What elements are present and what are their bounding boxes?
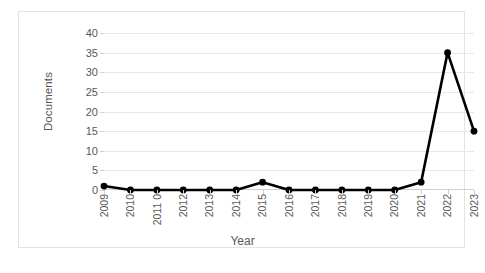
y-axis-tick-label: 0 xyxy=(72,185,98,196)
x-axis-tick-label: 2015 xyxy=(257,194,268,217)
y-axis-tick-label: 35 xyxy=(72,47,98,58)
x-axis-tick-label: 2021 xyxy=(416,194,427,217)
x-axis-tick: 2018 xyxy=(335,194,349,221)
data-point-marker xyxy=(101,183,108,190)
data-point-marker xyxy=(259,179,266,186)
x-axis-tick: 2010 xyxy=(123,194,137,221)
x-axis-tick-label: 2018 xyxy=(337,194,348,217)
x-axis-tick: 2016 xyxy=(282,194,296,221)
x-axis-tick: 2014 xyxy=(229,194,243,221)
x-axis-tick-label: 2017 xyxy=(310,194,321,217)
data-point-marker xyxy=(418,179,425,186)
x-axis-tick: 2017 xyxy=(308,194,322,221)
x-axis-tick: 2012 xyxy=(176,194,190,221)
x-axis-tick-label: 2013 xyxy=(204,194,215,217)
plot-area xyxy=(104,33,474,190)
y-axis-tick-label: 20 xyxy=(72,106,98,117)
y-axis-title: Documents xyxy=(42,72,54,131)
x-axis-tick: 2021 xyxy=(414,194,428,221)
x-axis-tick: 2009 xyxy=(97,194,111,221)
x-axis-tick-label: 2023 xyxy=(469,194,480,217)
y-axis-tick-label: 15 xyxy=(72,126,98,137)
series-line xyxy=(104,53,474,190)
x-axis-tick-label: 2019 xyxy=(363,194,374,217)
x-axis-tick: 2023 xyxy=(467,194,481,221)
y-axis-tick-label: 10 xyxy=(72,145,98,156)
x-axis-tick-label: 2009 xyxy=(99,194,110,217)
data-point-marker xyxy=(471,128,478,135)
x-axis-tick-labels: 200920102011 020122013201420152016201720… xyxy=(104,194,474,234)
y-axis-tick-label: 5 xyxy=(72,165,98,176)
x-axis-tick: 2011 0 xyxy=(150,194,164,229)
line-series-documents xyxy=(104,33,474,190)
x-axis-tick-label: 2022 xyxy=(442,194,453,217)
data-point-marker xyxy=(444,49,451,56)
x-axis-tick-label: 2014 xyxy=(231,194,242,217)
y-axis-tick-labels: 0510152025303540 xyxy=(70,33,98,190)
x-axis-tick: 2019 xyxy=(361,194,375,221)
x-axis-tick: 2013 xyxy=(203,194,217,221)
y-axis-tick-label: 40 xyxy=(72,28,98,39)
x-axis-tick-label: 2016 xyxy=(284,194,295,217)
chart-frame: Documents 0510152025303540 200920102011 … xyxy=(18,11,465,248)
y-axis-tick-label: 25 xyxy=(72,86,98,97)
x-axis-tick: 2020 xyxy=(388,194,402,221)
x-axis-tick-label: 2010 xyxy=(125,194,136,217)
x-axis-tick-label: 2020 xyxy=(389,194,400,217)
x-axis-title: Year xyxy=(19,234,466,248)
x-axis-tick-label: 2011 0 xyxy=(152,194,163,225)
x-axis-tick: 2022 xyxy=(441,194,455,221)
y-axis-tick-label: 30 xyxy=(72,67,98,78)
x-axis-tick-label: 2012 xyxy=(178,194,189,217)
x-axis-tick: 2015 xyxy=(256,194,270,221)
